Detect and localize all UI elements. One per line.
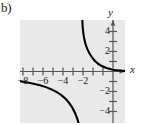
y-axis-label: y [108, 6, 113, 18]
x-tick-label-neg4: −4 [56, 75, 70, 86]
panel-label: b) [1, 0, 11, 16]
x-axis-label: x [130, 63, 135, 75]
y-tick-label-neg2: −2 [96, 85, 110, 96]
x-tick-label-neg8: −8 [16, 75, 30, 86]
y-tick-label-4: 4 [99, 25, 110, 36]
curve-branch-lower-left [20, 81, 79, 123]
x-tick-label-neg6: −6 [36, 75, 50, 86]
x-tick-label-neg2: −2 [76, 75, 90, 86]
figure-container: b) [0, 0, 141, 125]
y-tick-label-neg4: −4 [96, 105, 110, 116]
y-tick-label-2: 2 [99, 45, 110, 56]
